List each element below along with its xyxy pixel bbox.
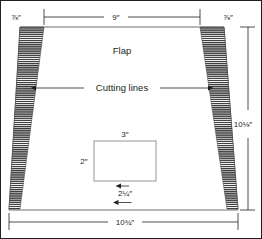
- flap-template-diagram: 9″ ⅞″ ⅞″ 10⅛″ 10¾″ Flap Cutting lines 3″…: [0, 0, 262, 239]
- inner-width-dimension-label: 3″: [121, 130, 128, 139]
- inner-cutout-rectangle: [94, 141, 156, 181]
- flap-label: Flap: [113, 45, 131, 56]
- top-right-margin-dimension-label: ⅞″: [223, 13, 233, 22]
- top-left-margin-dimension-label: ⅞″: [11, 13, 21, 22]
- inner-height-dimension-label: 2″: [80, 157, 87, 166]
- top-width-dimension-label: 9″: [112, 13, 119, 22]
- cutting-lines-label: Cutting lines: [96, 82, 149, 93]
- inner-bottom-offset-dimension-label: 2¼″: [118, 189, 132, 198]
- diagram-canvas: 9″ ⅞″ ⅞″ 10⅛″ 10¾″ Flap Cutting lines 3″…: [0, 0, 262, 239]
- bottom-width-dimension-label: 10¾″: [116, 218, 135, 227]
- height-dimension-label: 10⅛″: [234, 120, 253, 129]
